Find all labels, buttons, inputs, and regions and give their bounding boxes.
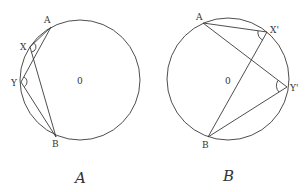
label-point-b: B	[52, 139, 59, 149]
chord-a-x	[30, 27, 51, 47]
label-point-x-prime: X'	[270, 25, 279, 35]
diagram-b: A X' Y' B 0 B	[167, 12, 298, 185]
angle-mark-y	[24, 77, 27, 87]
label-point-b: B	[202, 140, 209, 150]
label-center-o: 0	[77, 76, 83, 86]
label-point-x: X	[20, 42, 27, 52]
angle-mark-x-prime	[258, 31, 263, 40]
angle-mark-y-prime	[276, 81, 279, 93]
label-center-o: 0	[225, 76, 231, 86]
diagram-a: A X Y B 0 A	[10, 15, 140, 187]
caption-b: B	[222, 167, 234, 185]
label-point-y-prime: Y'	[289, 83, 298, 93]
label-point-a: A	[195, 12, 203, 22]
label-point-y: Y	[10, 78, 18, 88]
chord-y-prime-b	[208, 87, 287, 137]
caption-a: A	[73, 169, 86, 187]
chord-y-b	[21, 82, 56, 137]
label-point-a: A	[43, 15, 51, 25]
inscribed-angle-diagrams: A X Y B 0 A A X' Y' B 0 B	[0, 0, 305, 192]
chord-x-prime-b	[208, 32, 267, 137]
